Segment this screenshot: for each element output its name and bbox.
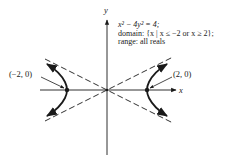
x-axis-label: x [179,86,183,95]
vertex-right-label: (2, 0) [173,70,191,79]
vertex-right-point [145,88,149,92]
vertex-left-pointer [41,77,64,88]
equation-info-block: x² − 4y² = 4; domain: {x | x ≤ −2 or x ≥… [118,21,214,47]
vertex-left-point [65,88,69,92]
asymptote-positive-slope [45,58,172,122]
vertex-left-label: (−2, 0) [9,70,32,79]
vertex-right-pointer [150,77,172,88]
asymptote-negative-slope [45,59,172,123]
origin-point [106,89,108,91]
range-text: range: all reals [118,38,214,47]
y-axis-label: y [104,6,108,15]
